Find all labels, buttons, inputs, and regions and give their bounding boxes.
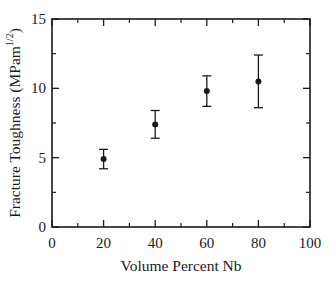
x-tick-label: 20	[96, 235, 111, 251]
axes-box	[52, 19, 310, 227]
y-tick-label: 0	[39, 219, 47, 235]
data-point	[204, 88, 210, 94]
data-point	[101, 156, 107, 162]
y-axis-label: Fracture Toughness (MPam1/2)	[4, 28, 23, 218]
y-tick-label: 10	[31, 80, 46, 96]
y-tick-label: 15	[31, 11, 46, 27]
y-axis-label-superscript: 1/2	[4, 33, 15, 46]
x-tick-label: 80	[251, 235, 266, 251]
y-axis-label-text: Fracture Toughness (MPam	[6, 46, 23, 218]
y-tick-label: 5	[39, 150, 47, 166]
x-tick-label: 100	[299, 235, 322, 251]
data-point	[255, 78, 261, 84]
y-axis-label-suffix: )	[6, 28, 23, 33]
x-axis-label: Volume Percent Nb	[120, 257, 241, 275]
x-tick-label: 40	[148, 235, 163, 251]
x-tick-label: 60	[199, 235, 214, 251]
x-tick-label: 0	[48, 235, 56, 251]
data-point	[152, 121, 158, 127]
plot-area: 020406080100051015	[0, 0, 334, 283]
scatter-plot-figure: 020406080100051015 Volume Percent Nb Fra…	[0, 0, 334, 283]
